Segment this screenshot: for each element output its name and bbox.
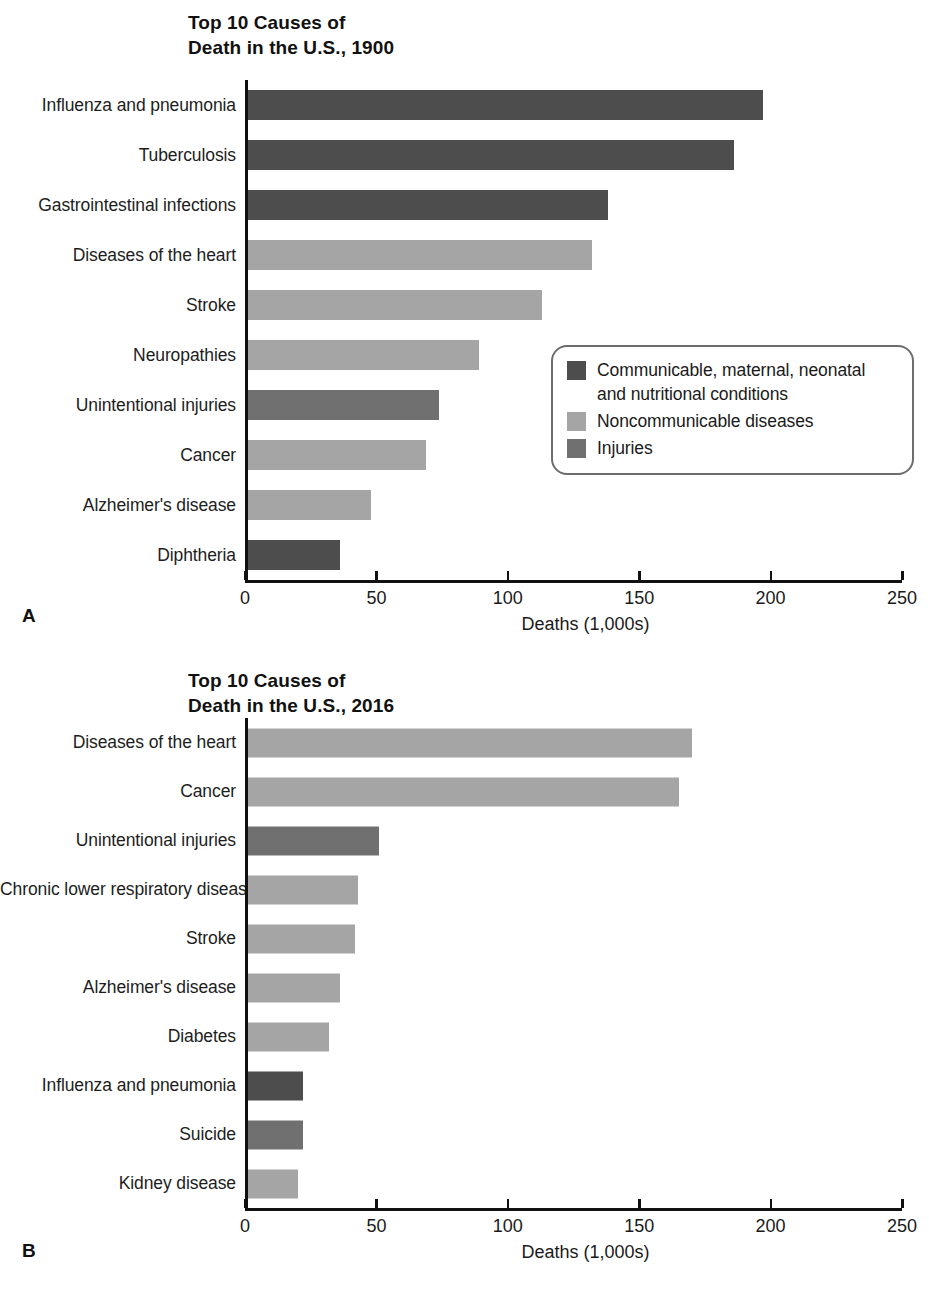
bar-track	[245, 230, 929, 280]
chart-title-a: Top 10 Causes of Death in the U.S., 1900	[188, 10, 394, 60]
y-axis-line-b	[245, 718, 248, 1208]
bar	[245, 240, 592, 270]
category-label: Influenza and pneumonia	[0, 1075, 245, 1096]
bar	[245, 140, 734, 170]
legend-label: Noncommunicable diseases	[597, 409, 813, 433]
x-axis-tick-label: 250	[887, 588, 917, 609]
x-axis-tick-label: 50	[366, 1216, 386, 1237]
x-axis-title-b: Deaths (1,000s)	[0, 1242, 929, 1263]
bar-row: Diabetes	[0, 1012, 929, 1061]
category-label: Gastrointestinal infections	[0, 195, 245, 216]
category-label: Alzheimer's disease	[0, 977, 245, 998]
x-axis-tick	[507, 571, 510, 580]
bar-track	[245, 130, 929, 180]
x-axis-tick	[638, 1199, 641, 1208]
bar	[245, 1071, 303, 1100]
category-label: Stroke	[0, 295, 245, 316]
legend-label: Communicable, maternal, neonatal and nut…	[597, 358, 865, 406]
bar	[245, 390, 439, 420]
bar	[245, 1169, 298, 1198]
bar	[245, 1120, 303, 1149]
x-axis-tick-label: 0	[240, 1216, 250, 1237]
category-label: Influenza and pneumonia	[0, 95, 245, 116]
bar-row: Gastrointestinal infections	[0, 180, 929, 230]
x-axis-tick-label: 100	[493, 1216, 523, 1237]
bar-row: Cancer	[0, 767, 929, 816]
legend-swatch-icon	[567, 439, 586, 458]
bar-track	[245, 865, 929, 914]
x-axis-tick-label: 200	[756, 1216, 786, 1237]
x-axis-tick	[770, 1199, 773, 1208]
legend-item: Injuries	[567, 436, 896, 460]
x-axis-tick-label: 0	[240, 588, 250, 609]
bar	[245, 340, 479, 370]
bar-row: Tuberculosis	[0, 130, 929, 180]
bar-track	[245, 816, 929, 865]
x-axis-tick	[770, 571, 773, 580]
category-label: Chronic lower respiratory disease	[0, 879, 245, 900]
bar	[245, 540, 340, 570]
chart-panel-b: Top 10 Causes of Death in the U.S., 2016…	[0, 640, 929, 1295]
category-label: Cancer	[0, 445, 245, 466]
legend-item: Communicable, maternal, neonatal and nut…	[567, 358, 896, 406]
category-label: Neuropathies	[0, 345, 245, 366]
x-axis-tick	[638, 571, 641, 580]
category-label: Diphtheria	[0, 545, 245, 566]
x-axis-tick-label: 200	[756, 588, 786, 609]
x-axis-tick-label: 150	[624, 1216, 654, 1237]
category-label: Diabetes	[0, 1026, 245, 1047]
bar	[245, 826, 379, 855]
panel-letter-b: B	[22, 1240, 36, 1262]
bar-track	[245, 1110, 929, 1159]
chart-panel-a: Top 10 Causes of Death in the U.S., 1900…	[0, 0, 929, 640]
x-axis-tick	[244, 1199, 247, 1208]
category-label: Unintentional injuries	[0, 830, 245, 851]
bar	[245, 90, 763, 120]
bar	[245, 777, 679, 806]
x-axis-title-a: Deaths (1,000s)	[0, 614, 929, 635]
bar-track	[245, 180, 929, 230]
bar-track	[245, 1012, 929, 1061]
bar-track	[245, 480, 929, 530]
bar-track	[245, 1061, 929, 1110]
bar	[245, 490, 371, 520]
bar-track	[245, 1159, 929, 1208]
x-axis-tick-label: 250	[887, 1216, 917, 1237]
bar-row: Diseases of the heart	[0, 718, 929, 767]
x-axis-line-a	[245, 580, 902, 583]
bar	[245, 290, 542, 320]
bar	[245, 924, 355, 953]
bar-track	[245, 530, 929, 580]
bar-row: Influenza and pneumonia	[0, 1061, 929, 1110]
bar-row: Suicide	[0, 1110, 929, 1159]
category-label: Diseases of the heart	[0, 245, 245, 266]
bar-row: Alzheimer's disease	[0, 963, 929, 1012]
bar-track	[245, 718, 929, 767]
panel-letter-a: A	[22, 605, 36, 627]
x-axis-line-b	[245, 1208, 902, 1211]
category-label: Alzheimer's disease	[0, 495, 245, 516]
bar-row: Chronic lower respiratory disease	[0, 865, 929, 914]
chart-title-b: Top 10 Causes of Death in the U.S., 2016	[188, 668, 394, 718]
category-label: Tuberculosis	[0, 145, 245, 166]
bar-track	[245, 914, 929, 963]
legend-a: Communicable, maternal, neonatal and nut…	[551, 345, 914, 475]
bar	[245, 1022, 329, 1051]
x-axis-tick	[244, 571, 247, 580]
bar-row: Influenza and pneumonia	[0, 80, 929, 130]
bar-track	[245, 767, 929, 816]
x-axis-tick	[901, 571, 904, 580]
legend-label: Injuries	[597, 436, 653, 460]
bar-row: Stroke	[0, 914, 929, 963]
bar-row: Unintentional injuries	[0, 816, 929, 865]
category-label: Diseases of the heart	[0, 732, 245, 753]
x-axis-tick-label: 150	[624, 588, 654, 609]
bar-row: Alzheimer's disease	[0, 480, 929, 530]
bar-track	[245, 80, 929, 130]
x-axis-tick-label: 50	[366, 588, 386, 609]
bar	[245, 190, 608, 220]
x-axis-tick	[901, 1199, 904, 1208]
bar	[245, 973, 340, 1002]
y-axis-line-a	[245, 80, 248, 580]
x-axis-tick-label: 100	[493, 588, 523, 609]
